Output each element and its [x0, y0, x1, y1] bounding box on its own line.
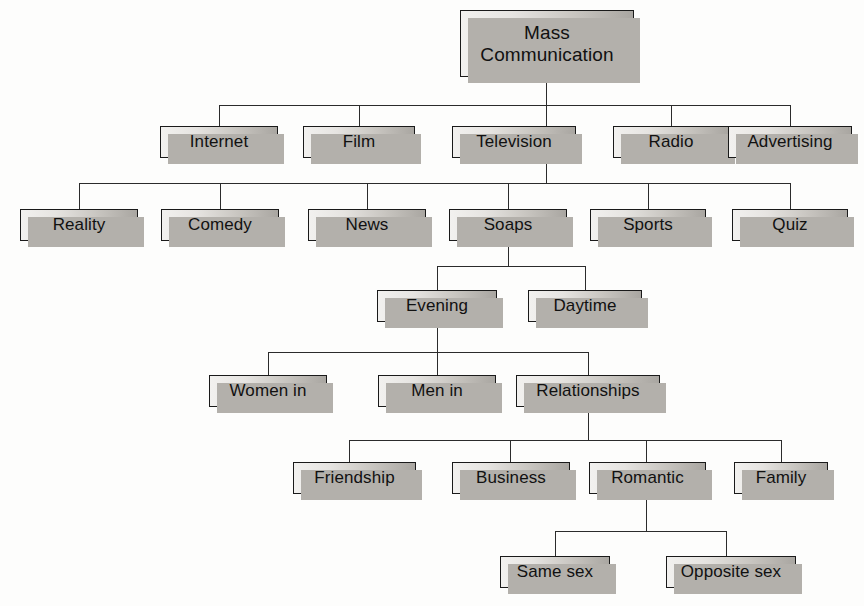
connector-drop-daytime — [585, 266, 586, 290]
node-label: MassCommunication — [474, 22, 619, 65]
connector-drop-evening — [437, 266, 438, 290]
node-mass-communication[interactable]: MassCommunication — [460, 10, 634, 77]
node-friendship[interactable]: Friendship — [293, 462, 416, 494]
connector-drop-business — [510, 440, 511, 462]
node-label: Evening — [400, 296, 474, 315]
node-label: Radio — [643, 132, 700, 151]
node-comedy[interactable]: Comedy — [161, 209, 279, 241]
connector-drop-sports — [648, 183, 649, 209]
node-label: Film — [337, 132, 382, 151]
node-label: Same sex — [511, 562, 599, 581]
node-quiz[interactable]: Quiz — [732, 209, 848, 241]
connector-drop-internet — [219, 105, 220, 126]
connector-drop-advertising — [790, 105, 791, 126]
connector-drop-friendship — [349, 440, 350, 462]
node-label: Friendship — [308, 468, 400, 487]
node-label: Sports — [617, 215, 679, 234]
connector-drop-romantic — [646, 440, 647, 462]
connector-drop-women-in — [268, 352, 269, 375]
node-film[interactable]: Film — [303, 126, 415, 158]
node-women-in[interactable]: Women in — [209, 375, 327, 407]
connector-level5-bus — [268, 352, 588, 353]
node-internet[interactable]: Internet — [160, 126, 278, 158]
connector-drop-men-in — [437, 352, 438, 375]
node-men-in[interactable]: Men in — [378, 375, 496, 407]
connector-drop-opposite-sex — [726, 531, 727, 556]
connector-drop-soaps — [508, 183, 509, 209]
node-label: Women in — [223, 381, 312, 400]
node-label: Television — [470, 132, 558, 151]
connector-drop-radio — [671, 105, 672, 126]
node-radio[interactable]: Radio — [613, 126, 729, 158]
node-label: Reality — [47, 215, 112, 234]
node-reality[interactable]: Reality — [20, 209, 138, 241]
connector-level3-bus — [79, 183, 790, 184]
node-label: Soaps — [478, 215, 539, 234]
node-label: Internet — [184, 132, 254, 151]
connector-drop-reality — [79, 183, 80, 209]
node-label: Business — [470, 468, 552, 487]
node-same-sex[interactable]: Same sex — [500, 556, 610, 588]
connector-drop-television — [546, 105, 547, 126]
connector-drop-news — [367, 183, 368, 209]
connector-drop-film — [359, 105, 360, 126]
node-television[interactable]: Television — [452, 126, 576, 158]
node-sports[interactable]: Sports — [590, 209, 706, 241]
connector-level2-bus — [219, 105, 790, 106]
node-advertising[interactable]: Advertising — [728, 126, 852, 158]
node-daytime[interactable]: Daytime — [528, 290, 642, 322]
node-label: Daytime — [547, 296, 622, 315]
connector-drop-comedy — [220, 183, 221, 209]
node-label: Relationships — [530, 381, 645, 400]
connector-drop-same-sex — [555, 531, 556, 556]
connector-drop-family — [781, 440, 782, 462]
node-evening[interactable]: Evening — [377, 290, 497, 322]
node-label: Men in — [405, 381, 469, 400]
node-soaps[interactable]: Soaps — [449, 209, 567, 241]
node-label: Quiz — [766, 215, 813, 234]
connector-level7-bus — [555, 531, 727, 532]
node-news[interactable]: News — [308, 209, 426, 241]
diagram-canvas: MassCommunication Internet Film Televisi… — [0, 0, 864, 606]
node-label: Romantic — [605, 468, 690, 487]
node-relationships[interactable]: Relationships — [516, 375, 660, 407]
node-label: Opposite sex — [675, 562, 787, 581]
node-label: Comedy — [182, 215, 258, 234]
connector-drop-relationships — [588, 352, 589, 375]
node-label: Family — [750, 468, 813, 487]
node-family[interactable]: Family — [734, 462, 828, 494]
node-business[interactable]: Business — [452, 462, 570, 494]
connector-level6-bus — [349, 440, 781, 441]
node-label: News — [340, 215, 395, 234]
node-romantic[interactable]: Romantic — [589, 462, 706, 494]
connector-level4-bus — [437, 266, 586, 267]
connector-drop-quiz — [790, 183, 791, 209]
node-opposite-sex[interactable]: Opposite sex — [666, 556, 796, 588]
node-label: Advertising — [741, 132, 838, 151]
